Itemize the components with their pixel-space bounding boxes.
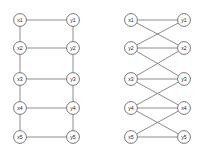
graph-node-y5[interactable]: y5 — [178, 131, 191, 144]
graph-figure: x1y1x2y2x3y3x4y4x5y5x1y1y2x2x3y3y4x4x5y5 — [0, 0, 213, 153]
node-circle[interactable] — [67, 131, 80, 144]
graph-node-y3[interactable]: y3 — [178, 73, 191, 86]
node-circle[interactable] — [125, 14, 138, 27]
graph-node-x2[interactable]: x2 — [14, 42, 27, 55]
ladder-graph-straight: x1y1x2y2x3y3x4y4x5y5 — [14, 14, 80, 144]
graph-node-x3[interactable]: x3 — [14, 73, 27, 86]
node-circle[interactable] — [14, 131, 27, 144]
node-circle[interactable] — [125, 42, 138, 55]
graph-node-y2[interactable]: y2 — [125, 42, 138, 55]
node-circle[interactable] — [178, 73, 191, 86]
ladder-graph-crossed: x1y1y2x2x3y3y4x4x5y5 — [125, 14, 191, 144]
node-circle[interactable] — [178, 42, 191, 55]
node-circle[interactable] — [67, 14, 80, 27]
node-circle[interactable] — [14, 102, 27, 115]
node-circle[interactable] — [125, 102, 138, 115]
edge-layer — [20, 20, 73, 137]
graph-canvas: x1y1x2y2x3y3x4y4x5y5x1y1y2x2x3y3y4x4x5y5 — [0, 0, 213, 153]
graph-node-y2[interactable]: y2 — [67, 42, 80, 55]
graph-node-x2[interactable]: x2 — [178, 42, 191, 55]
graph-node-x3[interactable]: x3 — [125, 73, 138, 86]
graph-node-y5[interactable]: y5 — [67, 131, 80, 144]
graph-node-x1[interactable]: x1 — [14, 14, 27, 27]
graph-node-y1[interactable]: y1 — [67, 14, 80, 27]
node-circle[interactable] — [14, 14, 27, 27]
node-circle[interactable] — [125, 131, 138, 144]
node-circle[interactable] — [67, 73, 80, 86]
node-circle[interactable] — [178, 14, 191, 27]
node-layer: x1y1x2y2x3y3x4y4x5y5 — [14, 14, 80, 144]
graph-node-x5[interactable]: x5 — [14, 131, 27, 144]
node-circle[interactable] — [67, 102, 80, 115]
node-circle[interactable] — [14, 42, 27, 55]
node-circle[interactable] — [67, 42, 80, 55]
node-circle[interactable] — [125, 73, 138, 86]
graph-node-y4[interactable]: y4 — [125, 102, 138, 115]
node-circle[interactable] — [14, 73, 27, 86]
graph-node-x1[interactable]: x1 — [125, 14, 138, 27]
graph-node-y3[interactable]: y3 — [67, 73, 80, 86]
edge-layer — [137, 20, 179, 137]
graph-node-x4[interactable]: x4 — [178, 102, 191, 115]
graph-node-y4[interactable]: y4 — [67, 102, 80, 115]
graph-node-x4[interactable]: x4 — [14, 102, 27, 115]
node-layer: x1y1y2x2x3y3y4x4x5y5 — [125, 14, 191, 144]
node-circle[interactable] — [178, 102, 191, 115]
node-circle[interactable] — [178, 131, 191, 144]
graph-node-y1[interactable]: y1 — [178, 14, 191, 27]
graph-node-x5[interactable]: x5 — [125, 131, 138, 144]
